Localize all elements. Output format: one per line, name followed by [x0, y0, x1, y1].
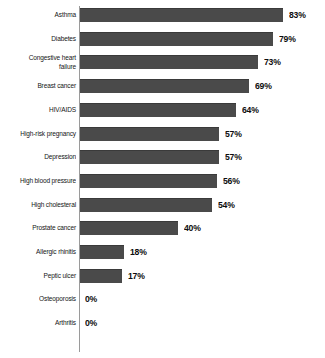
bar: [80, 150, 219, 164]
category-label: Osteoporosis: [12, 295, 76, 303]
bar-value-label: 64%: [242, 105, 259, 115]
bar-row: High-risk pregnancy57%: [0, 127, 325, 141]
bar: [80, 127, 219, 141]
bar-rows: Asthma83%Diabetes79%Congestive heart fai…: [0, 0, 325, 358]
bar: [80, 79, 249, 93]
bar-row: Depression57%: [0, 150, 325, 164]
bar: [80, 55, 258, 69]
bar-value-label: 0%: [85, 318, 97, 328]
category-label: Breast cancer: [12, 82, 76, 90]
category-label: Peptic ulcer: [12, 272, 76, 280]
bar-row: Peptic ulcer17%: [0, 269, 325, 283]
bar-value-label: 17%: [128, 271, 145, 281]
category-label: Allergic rhinitis: [12, 248, 76, 256]
bar-row: High blood pressure56%: [0, 174, 325, 188]
bar: [80, 32, 273, 46]
category-label: High-risk pregnancy: [12, 130, 76, 138]
bar-value-label: 18%: [130, 247, 147, 257]
category-label: Depression: [12, 153, 76, 161]
bar-value-label: 54%: [218, 200, 235, 210]
bar-row: Congestive heart failure73%: [0, 55, 325, 69]
bar: [80, 221, 178, 235]
bar-row: Breast cancer69%: [0, 79, 325, 93]
bar: [80, 245, 124, 259]
category-label: Prostate cancer: [12, 224, 76, 232]
bar-row: Diabetes79%: [0, 32, 325, 46]
bar-value-label: 83%: [289, 10, 306, 20]
category-label: Congestive heart failure: [12, 54, 76, 70]
bar: [80, 269, 122, 283]
bar-row: Osteoporosis0%: [0, 292, 325, 306]
bar-value-label: 73%: [264, 57, 281, 67]
bar-row: HIV/AIDS64%: [0, 103, 325, 117]
bar-value-label: 79%: [279, 34, 296, 44]
bar: [80, 103, 236, 117]
category-label: Diabetes: [12, 35, 76, 43]
bar-row: Arthritis0%: [0, 316, 325, 330]
bar-row: Allergic rhinitis18%: [0, 245, 325, 259]
category-label: Arthritis: [12, 319, 76, 327]
bar-row: Asthma83%: [0, 8, 325, 22]
bar-value-label: 40%: [184, 223, 201, 233]
bar-value-label: 56%: [223, 176, 240, 186]
bar-row: High cholesteral54%: [0, 198, 325, 212]
category-label: Asthma: [12, 11, 76, 19]
category-label: HIV/AIDS: [12, 106, 76, 114]
bar-value-label: 57%: [225, 129, 242, 139]
bar-value-label: 69%: [255, 81, 272, 91]
bar: [80, 174, 217, 188]
bar: [80, 8, 283, 22]
bar-row: Prostate cancer40%: [0, 221, 325, 235]
bar-value-label: 0%: [85, 294, 97, 304]
category-label: High blood pressure: [12, 177, 76, 185]
bar: [80, 198, 212, 212]
bar-value-label: 57%: [225, 152, 242, 162]
horizontal-bar-chart: Asthma83%Diabetes79%Congestive heart fai…: [0, 0, 325, 358]
category-label: High cholesteral: [12, 201, 76, 209]
